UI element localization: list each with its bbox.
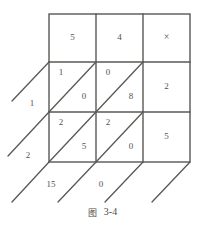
cell-r3c2-upper: 2 [101,118,115,127]
figure-caption: 图3-4 [0,206,205,219]
diagonal-extension-left-1 [12,62,49,101]
cell-r3c2-lower: 0 [124,142,138,151]
figure-caption-mark: 图 [88,206,97,219]
cell-r2c1-lower: 0 [77,92,91,101]
result-label-1: 15 [41,180,61,189]
multiplier-label-1: 1 [25,99,39,108]
diagonal-extension-bottom-4 [152,162,190,202]
cell-r1c2-value: 4 [96,33,143,42]
cell-r2c1-upper: 1 [54,68,68,77]
cell-r3c1-upper: 2 [54,118,68,127]
cell-r2c3-value: 2 [143,82,190,91]
multiplier-label-2: 2 [21,151,35,160]
operator-multiply-icon: × [143,32,190,42]
cell-r1c1-value: 5 [49,33,96,42]
result-label-2: 0 [91,180,111,189]
cell-r3c3-value: 5 [143,132,190,141]
cell-r2c2-upper: 0 [101,68,115,77]
figure-caption-number: 3-4 [104,206,117,217]
figure-container: 5 4 × 1 0 0 8 2 2 5 2 0 5 1 2 15 0 图3-4 [0,0,205,233]
cell-r3c1-lower: 5 [77,142,91,151]
cell-r2c2-lower: 8 [124,92,138,101]
